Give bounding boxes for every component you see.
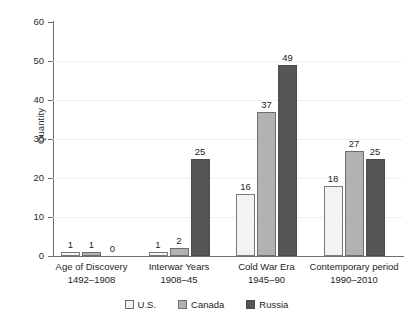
bar-russia-3: [366, 159, 385, 257]
bar-canada-2: [257, 112, 276, 256]
bar-value-label: 49: [273, 52, 302, 63]
legend-item-canada: Canada: [178, 299, 224, 310]
legend-label: Canada: [191, 299, 224, 310]
bar-value-label: 18: [319, 173, 348, 184]
y-tick-label: 0: [0, 250, 44, 261]
legend-swatch-canada: [178, 300, 187, 309]
bar-chart: Quantity 0102030405060 11012251637491827…: [0, 0, 413, 327]
x-category-range: 1990–2010: [294, 274, 413, 287]
legend-item-us: U.S.: [125, 299, 156, 310]
bar-canada-1: [170, 248, 189, 256]
y-tick-label: 10: [0, 211, 44, 222]
bar-us-3: [324, 186, 343, 256]
legend-swatch-russia: [246, 300, 255, 309]
bar-us-2: [236, 194, 255, 256]
bar-us-0: [61, 252, 80, 256]
y-tick-label: 20: [0, 172, 44, 183]
x-category-name: Interwar Years: [149, 261, 210, 272]
gridline: [53, 100, 403, 101]
bar-value-label: 2: [165, 235, 194, 246]
y-tick-label: 60: [0, 16, 44, 27]
gridline: [53, 61, 403, 62]
x-category-name: Cold War Era: [238, 261, 295, 272]
x-axis-line: [53, 256, 404, 257]
bar-value-label: 25: [186, 146, 215, 157]
bar-value-label: 0: [98, 243, 127, 254]
x-category-name: Contemporary period: [309, 261, 398, 272]
legend-swatch-us: [125, 300, 134, 309]
y-tick-label: 30: [0, 133, 44, 144]
plot-area: 1101225163749182725: [53, 22, 403, 256]
bar-russia-2: [278, 65, 297, 256]
x-category-name: Age of Discovery: [56, 261, 128, 272]
bar-us-1: [149, 252, 168, 256]
bar-value-label: 37: [252, 99, 281, 110]
chart-legend: U.S.CanadaRussia: [0, 299, 413, 310]
bar-russia-1: [191, 159, 210, 257]
legend-label: U.S.: [138, 299, 156, 310]
bar-canada-3: [345, 151, 364, 256]
y-tick-label: 40: [0, 94, 44, 105]
bar-value-label: 25: [361, 146, 390, 157]
legend-label: Russia: [259, 299, 288, 310]
x-category-label-3: Contemporary period1990–2010: [294, 261, 413, 286]
y-tick-label: 50: [0, 55, 44, 66]
bar-value-label: 16: [231, 181, 260, 192]
legend-item-russia: Russia: [246, 299, 288, 310]
